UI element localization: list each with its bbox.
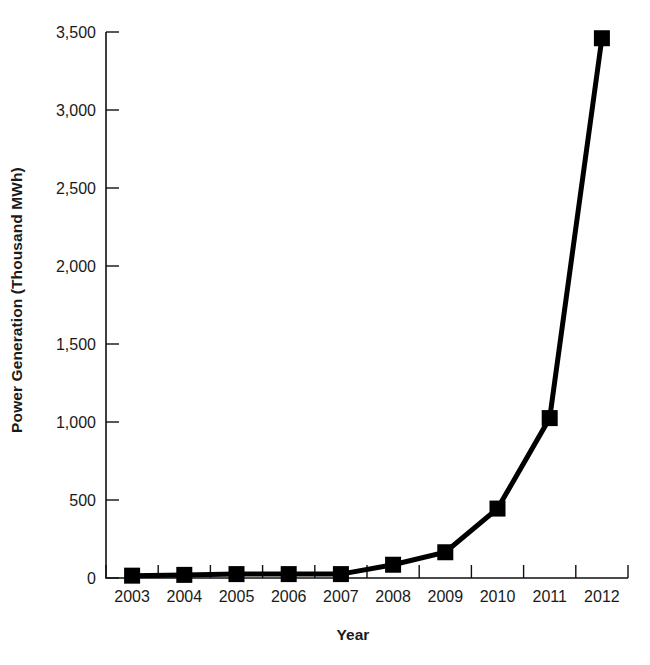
- plot-area: 05001,0001,5002,0002,5003,0003,500 20032…: [0, 0, 650, 620]
- y-tick-label: 2,500: [56, 180, 96, 197]
- y-tick-label: 1,500: [56, 336, 96, 353]
- x-tick-label: 2007: [323, 588, 359, 605]
- line-chart: Power Generation (Thousand MWh) 05001,00…: [0, 0, 650, 665]
- y-axis-ticks: [106, 32, 119, 578]
- data-point-marker: [333, 566, 349, 582]
- x-axis-title-label: Year: [337, 626, 370, 643]
- data-point-marker: [542, 410, 558, 426]
- y-tick-label: 0: [87, 570, 96, 587]
- data-point-marker: [437, 544, 453, 560]
- x-tick-label: 2006: [271, 588, 307, 605]
- x-tick-label: 2008: [375, 588, 411, 605]
- x-tick-labels: 2003200420052006200720082009201020112012: [114, 588, 619, 605]
- y-tick-label: 1,000: [56, 414, 96, 431]
- y-tick-label: 3,500: [56, 24, 96, 41]
- data-point-marker: [124, 568, 140, 584]
- x-tick-label: 2005: [219, 588, 255, 605]
- x-tick-label: 2012: [584, 588, 620, 605]
- x-axis-title: Year: [0, 626, 650, 644]
- data-point-marker: [490, 501, 506, 517]
- y-tick-label: 3,000: [56, 102, 96, 119]
- data-point-marker: [281, 566, 297, 582]
- x-tick-label: 2003: [114, 588, 150, 605]
- data-point-marker: [594, 30, 610, 46]
- axis-spines: [106, 32, 628, 578]
- x-tick-label: 2010: [480, 588, 516, 605]
- data-series-line: [132, 38, 602, 575]
- data-point-marker: [229, 566, 245, 582]
- data-point-marker: [385, 557, 401, 573]
- x-tick-label: 2004: [167, 588, 203, 605]
- y-tick-label: 500: [69, 492, 96, 509]
- x-tick-label: 2009: [428, 588, 464, 605]
- data-point-marker: [176, 567, 192, 583]
- x-tick-label: 2011: [532, 588, 567, 605]
- y-tick-label: 2,000: [56, 258, 96, 275]
- data-point-markers: [124, 30, 610, 583]
- y-tick-labels: 05001,0001,5002,0002,5003,0003,500: [56, 24, 96, 587]
